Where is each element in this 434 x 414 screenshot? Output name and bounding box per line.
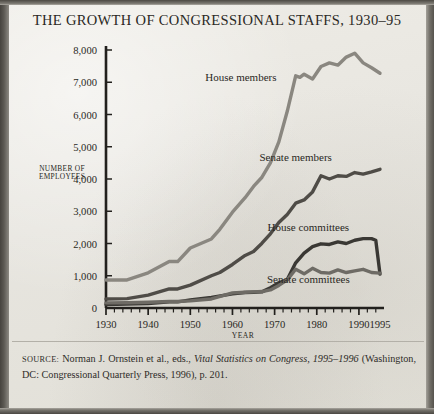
x-tick-label: 1940 bbox=[138, 319, 159, 330]
x-tick-label: 1950 bbox=[180, 319, 201, 330]
x-tick-label: 1930 bbox=[95, 319, 116, 330]
source-italic-title: Vital Statistics on Congress, 1995–1996 bbox=[194, 353, 359, 364]
series-label-house-committees: House committees bbox=[268, 221, 350, 233]
series-label-senate-committees: Senate committees bbox=[267, 273, 350, 285]
x-tick-label: 1960 bbox=[222, 319, 243, 330]
y-tick-label: 0 bbox=[92, 303, 97, 314]
source-text-before: Norman J. Ornstein et al., eds., bbox=[59, 353, 194, 364]
x-tick-label: 1980 bbox=[306, 319, 327, 330]
y-tick-label: 5,000 bbox=[73, 142, 97, 153]
axis-titles: NUMBER OFEMPLOYEESYEAR bbox=[39, 164, 255, 340]
series-label-senate-members: Senate members bbox=[259, 151, 331, 163]
y-tick-label: 8,000 bbox=[73, 45, 97, 56]
chart-figure: THE GROWTH OF CONGRESSIONAL STAFFS, 1930… bbox=[0, 0, 434, 414]
x-tick-label: 1995 bbox=[369, 319, 390, 330]
y-tick-label: 7,000 bbox=[73, 77, 97, 88]
y-tick-label: 3,000 bbox=[73, 206, 97, 217]
y-tick-label: 1,000 bbox=[73, 271, 97, 282]
series-label-house-members: House members bbox=[205, 71, 276, 83]
source-label: SOURCE: bbox=[22, 355, 59, 364]
caption-divider bbox=[12, 341, 424, 342]
x-axis-title: YEAR bbox=[232, 331, 255, 340]
x-tick-label: 1970 bbox=[264, 319, 285, 330]
y-tick-label: 6,000 bbox=[73, 110, 97, 121]
y-tick-label: 2,000 bbox=[73, 239, 97, 250]
frame-border-bottom bbox=[0, 408, 434, 414]
x-axis: 19301940195019601970198019901995 bbox=[95, 308, 390, 330]
series-line-house-members bbox=[106, 53, 380, 280]
y-axis-title-line2: EMPLOYEES bbox=[39, 172, 85, 181]
data-series-group bbox=[106, 53, 380, 304]
x-tick-label: 1990 bbox=[348, 319, 369, 330]
source-caption: SOURCE: Norman J. Ornstein et al., eds.,… bbox=[22, 352, 416, 382]
line-chart-plot: 01,0002,0003,0004,0005,0006,0007,0008,00… bbox=[0, 0, 434, 345]
